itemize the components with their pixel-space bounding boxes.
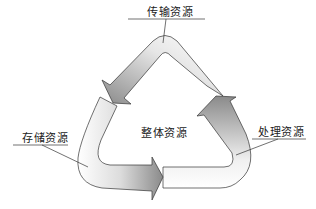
label-transmission: 传输资源 [147, 3, 193, 19]
resource-cycle-diagram: 传输资源 处理资源 存储资源 整体资源 [0, 0, 316, 209]
cycle-arrows [0, 0, 316, 209]
arrow-transmission-to-storage [102, 36, 223, 105]
arrow-storage-to-processing [78, 97, 163, 200]
label-processing: 处理资源 [258, 123, 304, 139]
arrow-processing-to-transmission [163, 96, 251, 188]
label-storage: 存储资源 [22, 129, 68, 145]
center-label: 整体资源 [141, 124, 187, 140]
